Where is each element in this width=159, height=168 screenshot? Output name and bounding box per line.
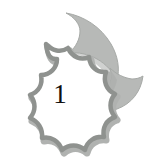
icon-canvas: 1 [0,0,159,168]
moon-and-star-illustration [0,0,159,168]
